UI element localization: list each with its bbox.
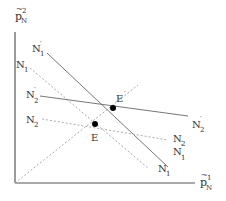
svg-text:1: 1 bbox=[181, 154, 185, 162]
svg-text:2: 2 bbox=[200, 126, 204, 134]
svg-text:2: 2 bbox=[34, 97, 38, 105]
svg-text:1: 1 bbox=[40, 50, 44, 58]
label-e: E bbox=[91, 132, 98, 143]
label-n1-prime-left: N 1 ′ bbox=[32, 40, 44, 58]
svg-text:E: E bbox=[91, 132, 98, 143]
svg-text:1: 1 bbox=[207, 174, 211, 182]
svg-text:1: 1 bbox=[24, 66, 28, 74]
svg-text:1: 1 bbox=[166, 170, 170, 178]
label-n2-left: N 2 bbox=[26, 114, 38, 129]
point-e bbox=[92, 121, 98, 127]
line-n2 bbox=[42, 119, 168, 140]
line-n1-prime bbox=[47, 53, 168, 167]
label-n2-prime-left: N 2 ′ bbox=[26, 86, 38, 105]
label-n1-right: N 1 bbox=[158, 163, 170, 178]
svg-text:N: N bbox=[206, 184, 212, 192]
svg-text:E: E bbox=[116, 93, 123, 104]
point-e-prime bbox=[110, 105, 116, 111]
label-n1-left: N 1 bbox=[16, 59, 28, 74]
y-axis-label: p ~ 2 N bbox=[15, 5, 27, 25]
svg-text:2: 2 bbox=[22, 7, 26, 15]
svg-text:′: ′ bbox=[34, 86, 36, 94]
label-e-prime: E ′ bbox=[116, 90, 126, 104]
svg-text:N: N bbox=[21, 17, 27, 25]
svg-text:′: ′ bbox=[124, 90, 126, 98]
line-n1 bbox=[30, 68, 148, 168]
svg-text:′: ′ bbox=[40, 40, 42, 48]
svg-text:′: ′ bbox=[200, 115, 202, 123]
label-n2-prime-right: N 2 ′ bbox=[192, 115, 204, 134]
x-axis-label: p ~ 1 N bbox=[200, 171, 212, 192]
svg-text:2: 2 bbox=[34, 121, 38, 129]
diagram-canvas: p ~ 2 N p ~ 1 N N 1 ′ N 1 N 2 ′ N 2 N 2 … bbox=[0, 0, 226, 201]
